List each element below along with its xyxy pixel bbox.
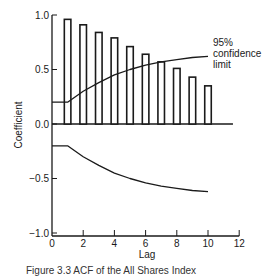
- acf-bar: [127, 47, 134, 124]
- acf-bar: [80, 25, 87, 124]
- acf-bar: [96, 32, 103, 124]
- x-tick-label: 4: [112, 238, 118, 249]
- confidence-limit-lower: [52, 146, 208, 192]
- x-tick-label: 10: [202, 238, 214, 249]
- y-tick-label: 0.5: [35, 64, 49, 75]
- y-tick-label: −0.5: [29, 173, 49, 184]
- x-tick-label: 6: [143, 238, 149, 249]
- x-tick-label: 8: [174, 238, 180, 249]
- x-tick-label: 0: [49, 238, 55, 249]
- y-tick-label: 1.0: [35, 10, 49, 21]
- acf-bar: [174, 68, 181, 124]
- y-axis-title: Coefficient: [13, 101, 24, 148]
- acf-bar: [111, 38, 118, 124]
- confidence-annotation-line-1: 95%: [213, 37, 233, 48]
- x-tick-label: 12: [234, 238, 246, 249]
- acf-bar: [205, 86, 212, 124]
- confidence-annotation-line-2: confidence: [213, 48, 262, 59]
- acf-bar: [158, 62, 165, 124]
- y-tick-label: −1.0: [29, 228, 49, 239]
- acf-bar: [189, 77, 196, 124]
- y-tick-label: 0.0: [35, 119, 49, 130]
- confidence-annotation-line-3: limit: [213, 59, 231, 70]
- acf-chart: 1.00.50.0−0.5−1.0024681012 Lag Coefficie…: [0, 0, 275, 276]
- x-tick-label: 2: [80, 238, 86, 249]
- figure-caption: Figure 3.3 ACF of the All Shares Index: [26, 265, 196, 276]
- acf-bar: [64, 19, 71, 124]
- acf-bars: [64, 19, 211, 124]
- x-axis-title: Lag: [139, 249, 156, 260]
